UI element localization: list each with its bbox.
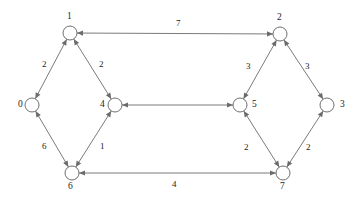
edge-weight-5-7: 2 bbox=[244, 143, 249, 152]
edge-weight-2-3: 3 bbox=[305, 62, 310, 71]
arrowhead-to-7 bbox=[274, 161, 279, 167]
arrowhead-to-4 bbox=[106, 111, 111, 117]
arrowhead-to-1 bbox=[77, 30, 83, 35]
arrowhead-to-4 bbox=[122, 102, 128, 107]
arrowhead-to-3 bbox=[318, 93, 323, 99]
node-label-7: 7 bbox=[280, 182, 285, 192]
graph-diagram: 227336122401234567 bbox=[0, 0, 361, 197]
node-3[interactable] bbox=[320, 98, 334, 112]
arrowhead-to-6 bbox=[76, 161, 81, 167]
node-label-2: 2 bbox=[277, 13, 282, 23]
node-label-1: 1 bbox=[67, 12, 72, 22]
edge-5-7 bbox=[244, 111, 280, 167]
node-5[interactable] bbox=[233, 98, 247, 112]
arrowhead-to-2 bbox=[284, 40, 289, 46]
arrowhead-to-7 bbox=[270, 170, 276, 175]
node-4[interactable] bbox=[108, 98, 122, 112]
node-label-3: 3 bbox=[340, 100, 345, 110]
arrowhead-to-6 bbox=[79, 170, 85, 175]
node-2[interactable] bbox=[273, 27, 287, 41]
arrowhead-to-6 bbox=[63, 160, 68, 166]
arrowhead-to-0 bbox=[36, 111, 41, 117]
arrowhead-to-4 bbox=[106, 93, 111, 99]
edge-3-7 bbox=[287, 111, 323, 167]
edge-weight-0-6: 6 bbox=[42, 142, 47, 151]
arrowhead-to-7 bbox=[287, 161, 292, 167]
node-label-5: 5 bbox=[252, 100, 257, 110]
graph-canvas-svg bbox=[0, 0, 361, 197]
node-1[interactable] bbox=[63, 26, 77, 40]
edge-4-1 bbox=[74, 39, 112, 99]
edge-1-2 bbox=[77, 33, 273, 34]
node-label-4: 4 bbox=[100, 100, 105, 110]
edge-weight-3-7: 2 bbox=[306, 143, 311, 152]
edge-weight-4-1: 2 bbox=[99, 60, 104, 69]
arrowhead-to-2 bbox=[267, 31, 273, 36]
arrowhead-to-5 bbox=[244, 111, 249, 117]
edge-6-4 bbox=[76, 111, 112, 167]
edge-weight-2-5: 3 bbox=[246, 62, 251, 71]
edge-weight-6-4: 1 bbox=[100, 142, 105, 151]
edge-weight-6-7: 4 bbox=[172, 180, 177, 189]
arrowhead-to-5 bbox=[227, 102, 233, 107]
nodes-layer bbox=[25, 26, 334, 180]
edge-weight-1-2: 7 bbox=[176, 19, 181, 28]
edges-layer bbox=[35, 33, 323, 173]
edge-0-1 bbox=[35, 39, 66, 99]
edge-0-6 bbox=[36, 111, 69, 167]
arrowhead-to-1 bbox=[74, 39, 79, 45]
node-label-0: 0 bbox=[18, 100, 23, 110]
arrowheads-layer bbox=[35, 30, 323, 175]
edge-2-3 bbox=[284, 40, 323, 99]
node-6[interactable] bbox=[65, 166, 79, 180]
arrowhead-to-3 bbox=[318, 111, 323, 117]
node-7[interactable] bbox=[276, 166, 290, 180]
node-label-6: 6 bbox=[68, 182, 73, 192]
node-0[interactable] bbox=[25, 98, 39, 112]
edge-weight-0-1: 2 bbox=[42, 60, 47, 69]
